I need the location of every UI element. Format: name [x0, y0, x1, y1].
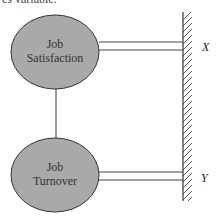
diagram-canvas: es variable. Job Satisfaction Job Turnov… [0, 0, 219, 221]
double-line-y [99, 172, 183, 180]
node-job-satisfaction: Job Satisfaction [11, 15, 99, 89]
node-label-line2: Turnover [33, 174, 77, 188]
node-label-line2: Satisfaction [27, 51, 84, 65]
node-job-turnover: Job Turnover [11, 138, 99, 212]
node-label-line1: Job [47, 160, 64, 174]
label-y: Y [201, 171, 209, 185]
label-x: X [201, 40, 210, 54]
double-line-x [99, 42, 183, 50]
hatched-wall [183, 11, 192, 206]
caption-fragment: es variable. [2, 0, 57, 6]
node-label-line1: Job [47, 37, 64, 51]
